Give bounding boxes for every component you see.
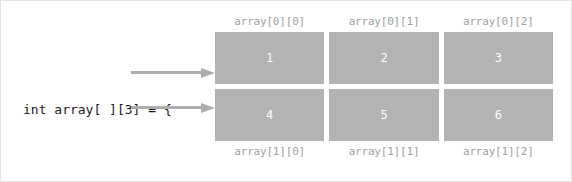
grid-label-array-1-0: array[1][0] [215, 143, 324, 161]
grid-top-label-row: array[0][0] array[0][1] array[0][2] [215, 13, 553, 31]
array-diagram-figure: int array[ ][3] = { {1,2,3}, {4,5,6} }; … [0, 0, 572, 182]
grid-label-array-0-0: array[0][0] [215, 13, 324, 31]
grid-label-array-0-1: array[0][1] [329, 13, 438, 31]
grid-label-array-1-2: array[1][2] [444, 143, 553, 161]
grid-label-array-1-1: array[1][1] [329, 143, 438, 161]
arrow-shaft [131, 71, 203, 74]
grid-row-0: 1 2 3 [215, 32, 553, 84]
arrow-head [201, 68, 215, 78]
grid-cell-1-2: 6 [444, 89, 553, 141]
grid-cell-0-1: 2 [329, 32, 438, 84]
array-grid: array[0][0] array[0][1] array[0][2] 1 2 … [215, 13, 553, 161]
arrow-head [201, 103, 215, 113]
grid-cell-1-1: 5 [329, 89, 438, 141]
arrow-row-1-icon [131, 103, 215, 113]
grid-cell-0-2: 3 [444, 32, 553, 84]
grid-label-array-0-2: array[0][2] [444, 13, 553, 31]
grid-cell-0-0: 1 [215, 32, 324, 84]
grid-row-1: 4 5 6 [215, 89, 553, 141]
grid-bottom-label-row: array[1][0] array[1][1] array[1][2] [215, 143, 553, 161]
arrow-shaft [131, 106, 203, 109]
arrow-row-0-icon [131, 68, 215, 78]
grid-cell-1-0: 4 [215, 89, 324, 141]
